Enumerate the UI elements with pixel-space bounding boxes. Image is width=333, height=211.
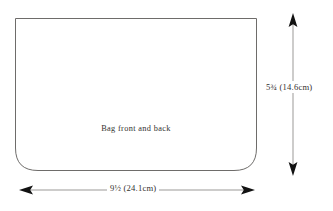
height-dimension-label: 5¾ (14.6cm) xyxy=(265,81,314,93)
width-dimension-label: 9½ (24.1cm) xyxy=(107,183,159,193)
bag-piece-outline xyxy=(16,19,257,171)
vertical-dimension-arrow xyxy=(289,13,298,176)
pattern-diagram-canvas: Bag front and back 5¾ (14.6cm) 9½ (24.1c… xyxy=(0,0,333,211)
bag-piece-label: Bag front and back xyxy=(0,124,272,133)
diagram-vector-layer xyxy=(0,0,333,211)
